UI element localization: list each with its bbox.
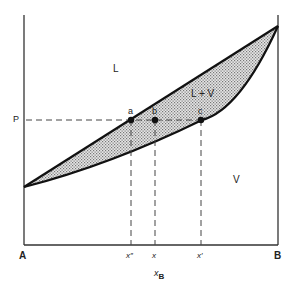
region-two-phase-label: L + V	[191, 88, 215, 99]
point-b-label: b	[152, 106, 157, 116]
component-b-label: B	[274, 250, 281, 261]
point-a	[128, 117, 134, 123]
liquidus-curve	[24, 26, 278, 187]
x-prime-label: x′	[196, 251, 203, 260]
point-c	[198, 117, 204, 123]
point-a-label: a	[128, 106, 133, 116]
pressure-label: P	[13, 114, 19, 124]
x-axis-title: xB	[153, 268, 165, 281]
phase-diagram: a b c P L L + V V A B x″ x x′ xB	[0, 0, 295, 289]
x-double-prime-label: x″	[125, 251, 134, 260]
x-label: x	[151, 251, 157, 260]
region-liquid-label: L	[113, 63, 119, 74]
point-b	[152, 117, 158, 123]
component-a-label: A	[19, 250, 26, 261]
x-axis-subscript: B	[159, 272, 165, 281]
point-c-label: c	[198, 106, 203, 116]
region-vapor-label: V	[233, 174, 240, 185]
